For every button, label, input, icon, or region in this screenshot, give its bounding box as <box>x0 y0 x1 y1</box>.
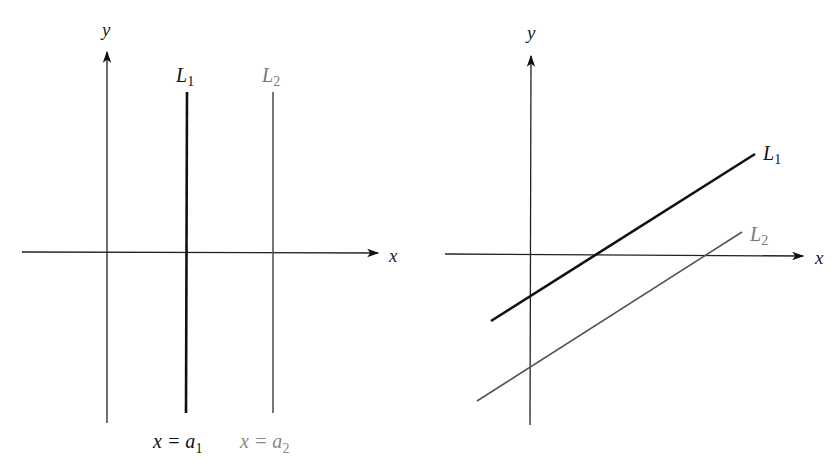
right-line-l2 <box>477 232 742 401</box>
right-x-axis-label: x <box>814 247 824 268</box>
left-l1-label: L1 <box>175 64 194 89</box>
right-l1-label: L1 <box>762 142 781 167</box>
left-x-axis <box>22 252 378 253</box>
right-y-axis <box>530 56 531 425</box>
right-panel: x y L1 L2 <box>445 22 824 425</box>
left-l2-equation: x = a2 <box>239 430 289 456</box>
right-l2-label: L2 <box>749 223 768 248</box>
right-x-axis <box>445 254 803 256</box>
left-y-axis-label: y <box>100 19 111 40</box>
left-l1-equation: x = a1 <box>152 430 202 456</box>
left-panel: x y L1 L2 x = a1 x = a2 <box>22 19 398 456</box>
left-x-axis-label: x <box>388 245 398 266</box>
left-line-l1 <box>186 92 187 413</box>
parallel-lines-diagram: x y L1 L2 x = a1 x = a2 x y L1 L2 <box>0 0 837 464</box>
left-l2-label: L2 <box>261 64 280 89</box>
right-y-axis-label: y <box>525 22 536 43</box>
